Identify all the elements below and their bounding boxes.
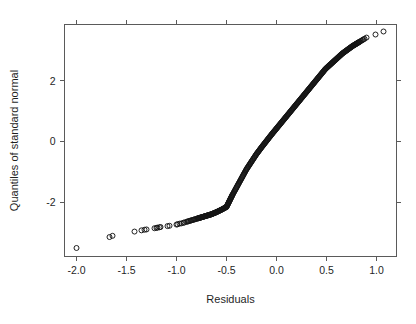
x-tick-label: -1.0 [167,264,185,276]
x-tick-label: 1.0 [369,264,384,276]
x-tick-label: 0.5 [319,264,334,276]
x-axis-title: Residuals [206,293,255,305]
y-tick-label: 0 [50,135,56,147]
x-tick-label: -2.0 [67,264,85,276]
qq-plot-canvas: -2.0-1.5-1.0-0.50.00.51.0 -202 Residuals… [0,0,416,324]
y-tick-label: -2 [46,196,55,208]
y-axis-title: Quantiles of standard normal [8,70,20,211]
x-tick-label: -0.5 [217,264,235,276]
x-tick-label: 0.0 [269,264,284,276]
y-tick-label: 2 [50,75,56,87]
x-tick-label: -1.5 [117,264,135,276]
qq-plot-figure: -2.0-1.5-1.0-0.50.00.51.0 -202 Residuals… [0,0,416,324]
